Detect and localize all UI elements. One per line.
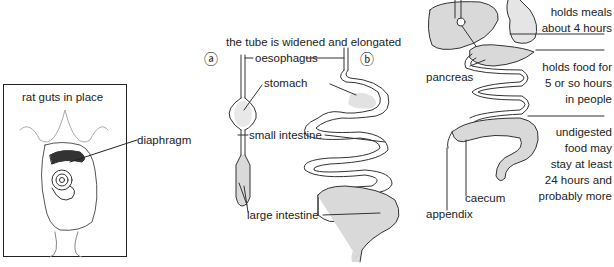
tube-a-drawing [229,55,262,212]
human-gut-drawing [428,0,604,210]
rat-body-drawing [20,110,137,257]
tube-b-drawing [304,48,399,262]
anatomy-illustration [0,0,614,267]
